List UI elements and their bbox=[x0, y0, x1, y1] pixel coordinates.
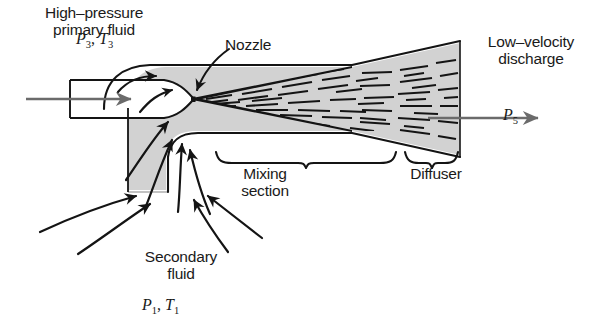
secondary-fluid-label: Secondary fluid bbox=[118, 248, 244, 282]
discharge-pressure-symbol: P bbox=[503, 106, 513, 123]
discharge-pressure-symbol-group: P5 bbox=[503, 106, 518, 126]
symbol-separator: , bbox=[91, 30, 99, 47]
low-velocity-discharge-label: Low–velocity discharge bbox=[466, 33, 596, 67]
low-velocity-line2: discharge bbox=[498, 50, 563, 67]
secondary-line2: fluid bbox=[167, 265, 194, 282]
primary-state-symbols: P3, T3 bbox=[76, 30, 113, 50]
ejector-diagram: High–pressure primary fluid P3, T3 Nozzl… bbox=[0, 0, 601, 333]
secondary-state-symbols: P1, T1 bbox=[142, 296, 179, 316]
mixing-section-label: Mixing section bbox=[222, 165, 308, 199]
nozzle-label: Nozzle bbox=[225, 36, 271, 53]
secondary-temp-symbol: T bbox=[165, 296, 174, 313]
low-velocity-line1: Low–velocity bbox=[488, 33, 574, 50]
primary-temp-symbol: T bbox=[99, 30, 108, 47]
secondary-temp-subscript: 1 bbox=[174, 305, 179, 316]
high-pressure-line1: High–pressure bbox=[45, 4, 143, 21]
symbol-separator-2: , bbox=[157, 296, 165, 313]
mixing-line2: section bbox=[241, 182, 289, 199]
discharge-pressure-subscript: 5 bbox=[513, 115, 518, 126]
secondary-line1: Secondary bbox=[145, 248, 217, 265]
primary-temp-subscript: 3 bbox=[108, 39, 113, 50]
primary-pressure-symbol: P bbox=[76, 30, 86, 47]
secondary-pressure-symbol: P bbox=[142, 296, 152, 313]
mixing-line1: Mixing bbox=[243, 165, 287, 182]
nozzle-throat bbox=[191, 97, 196, 103]
diffuser-label: Diffuser bbox=[400, 165, 472, 182]
